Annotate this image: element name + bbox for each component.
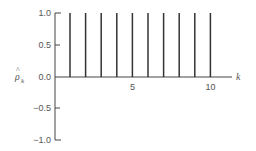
y-axis-label: ρ [14,71,20,82]
y-tick-label: 1.0 [38,8,51,18]
acf-chart: 1.0 0.5 0.0 −0.5 −1.0 5 10 k ^ ρ k [0,0,256,151]
x-tick-label: 10 [205,82,215,92]
x-axis-label: k [236,71,241,82]
y-tick-label: 0.0 [38,72,51,82]
stems [70,13,210,77]
y-axis-label-sub: k [21,77,25,85]
x-tick-label: 5 [130,82,135,92]
y-tick-label: 0.5 [38,40,51,50]
y-tick-label: −0.5 [33,103,51,113]
y-tick-label: −1.0 [33,135,51,145]
